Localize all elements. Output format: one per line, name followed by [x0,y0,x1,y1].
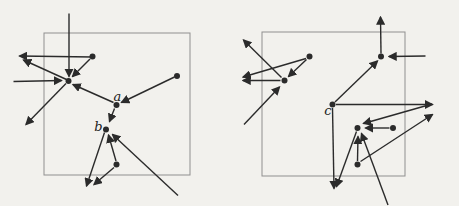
right-point-label-c: c [324,103,332,118]
right-point-dot-2 [378,54,384,60]
left-arrow-1 [20,56,93,57]
right-arrow-3 [289,60,307,77]
left-arrow-12 [94,168,114,185]
left-arrow-10 [109,135,117,161]
right-point-dot-6 [355,162,361,168]
left-arrow-4 [73,59,91,77]
arrow-diagram-figure: abc [0,0,459,206]
right-arrow-0 [381,17,382,54]
left-arrow-5 [73,85,114,103]
right-arrow-10 [337,132,357,187]
right-point-dot-0 [307,54,313,60]
left-arrow-11 [113,135,179,196]
left-arrow-8 [110,109,115,122]
scanned-figure-page: abc [0,0,459,206]
right-point-dot-1 [282,78,288,84]
right-point-dot-5 [390,125,396,131]
right-point-dot-4 [355,125,361,131]
left-point-dot-0 [66,78,72,84]
left-diagram: ab [14,14,191,196]
left-arrow-2 [24,60,67,80]
right-arrow-12 [358,137,359,162]
left-arrow-3 [14,81,62,82]
right-arrow-4 [243,59,306,78]
right-arrow-13 [362,134,389,206]
left-arrow-6 [26,84,66,125]
right-arrow-2 [335,61,378,102]
left-point-label-a: a [114,89,122,104]
left-arrow-7 [122,77,175,103]
right-arrow-1 [389,56,426,57]
left-point-label-b: b [94,119,102,134]
left-point-dot-4 [103,127,109,133]
left-point-dot-2 [174,73,180,79]
right-diagram: c [243,17,433,205]
left-point-dot-1 [90,54,96,60]
left-point-dot-5 [114,162,120,168]
right-arrow-14 [364,104,433,124]
